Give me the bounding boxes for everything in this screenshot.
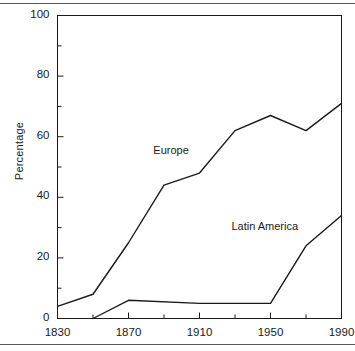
series-line-europe bbox=[58, 103, 342, 306]
series-label-latin-america: Latin America bbox=[231, 220, 298, 232]
y-axis-tick-label: 80 bbox=[18, 68, 50, 80]
y-axis-tick-label: 20 bbox=[18, 250, 50, 262]
plot-border bbox=[58, 16, 342, 319]
x-axis-tick-label: 1990 bbox=[320, 326, 355, 338]
y-axis-tick-label: 40 bbox=[18, 189, 50, 201]
line-chart-plot bbox=[0, 0, 355, 351]
x-axis-tick-label: 1910 bbox=[178, 326, 222, 338]
y-axis-tick-label: 60 bbox=[18, 129, 50, 141]
x-axis-tick-label: 1830 bbox=[36, 326, 80, 338]
series-label-europe: Europe bbox=[153, 144, 188, 156]
y-axis-tick-label: 100 bbox=[18, 8, 50, 20]
x-axis-tick-label: 1870 bbox=[107, 326, 151, 338]
series-line-latin-america bbox=[93, 215, 342, 318]
series-lines bbox=[58, 103, 342, 318]
plot-frame bbox=[58, 16, 342, 319]
axis-ticks bbox=[58, 16, 342, 319]
x-axis-tick-label: 1950 bbox=[249, 326, 293, 338]
figure: Percentage 02040608010018301870191019501… bbox=[0, 0, 355, 351]
y-axis-tick-label: 0 bbox=[18, 311, 50, 323]
